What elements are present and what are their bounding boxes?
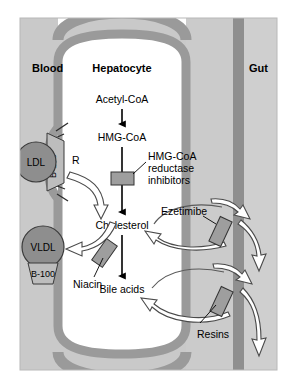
vldl-particle-label: VLDL bbox=[30, 242, 55, 253]
metabolite-cholesterol: Cholesterol bbox=[95, 219, 148, 231]
drug-label-niacin: Niacin bbox=[73, 278, 102, 290]
metabolite-hmg-coa: HMG-CoA bbox=[98, 131, 146, 143]
drug-label-statins-line3: inhibitors bbox=[148, 174, 190, 186]
metabolite-bile-acids: Bile acids bbox=[100, 283, 145, 295]
vldl-apo-b100-label: B-100 bbox=[31, 269, 55, 279]
statin-inhibition-block bbox=[111, 172, 134, 185]
cholesterol-pathway-diagram: Blood Hepatocyte Gut Acetyl-CoA HMG-CoA … bbox=[0, 0, 290, 389]
drug-label-statins-line2: reductase bbox=[148, 162, 194, 174]
drug-label-resins: Resins bbox=[197, 328, 229, 340]
drug-label-ezetimibe: Ezetimibe bbox=[161, 205, 207, 217]
label-receptor: R bbox=[72, 154, 80, 166]
metabolite-acetyl-coa: Acetyl-CoA bbox=[96, 93, 149, 105]
label-blood: Blood bbox=[32, 62, 63, 74]
intestinal-wall-band bbox=[233, 18, 244, 370]
label-hepatocyte: Hepatocyte bbox=[92, 62, 151, 74]
ldl-particle-label: LDL bbox=[27, 157, 46, 168]
diagram-canvas: Blood Hepatocyte Gut Acetyl-CoA HMG-CoA … bbox=[0, 0, 290, 389]
drug-label-statins-line1: HMG-CoA bbox=[148, 150, 196, 162]
label-gut: Gut bbox=[249, 62, 268, 74]
